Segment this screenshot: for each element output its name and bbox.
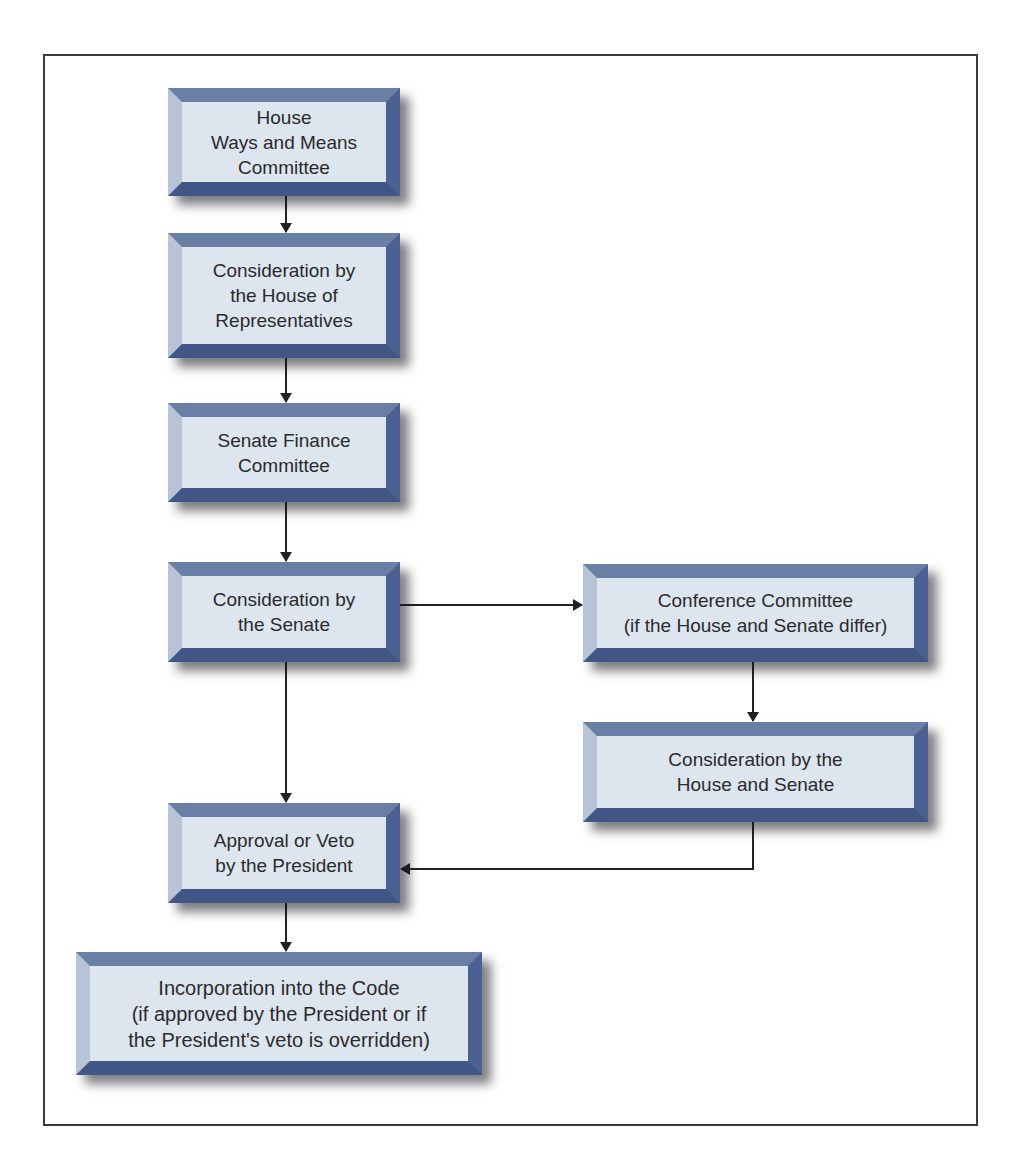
node-house-consideration: Consideration by the House of Representa… [168,233,400,358]
node-label: Conference Committee (if the House and S… [597,578,914,648]
node-label: Consideration by the House of Representa… [182,247,386,344]
node-ways-and-means: House Ways and Means Committee [168,88,400,196]
node-label: House Ways and Means Committee [182,102,386,182]
node-label: Senate Finance Committee [182,417,386,488]
node-incorporation: Incorporation into the Code (if approved… [76,952,482,1075]
node-label: Consideration by the Senate [182,576,386,648]
node-senate-finance: Senate Finance Committee [168,403,400,502]
node-house-and-senate: Consideration by the House and Senate [583,722,928,822]
node-label: Consideration by the House and Senate [597,736,914,808]
node-label: Incorporation into the Code (if approved… [90,966,468,1061]
node-president: Approval or Veto by the President [168,803,400,903]
node-label: Approval or Veto by the President [182,817,386,889]
node-senate-consideration: Consideration by the Senate [168,562,400,662]
node-conference-committee: Conference Committee (if the House and S… [583,564,928,662]
